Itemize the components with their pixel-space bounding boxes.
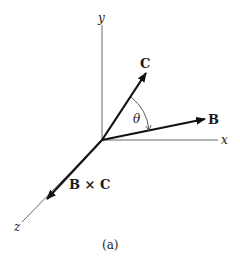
- figure-caption: (a): [102, 238, 119, 252]
- vector-c: [102, 73, 146, 140]
- vector-b-label: B: [208, 112, 219, 127]
- vector-c-label: C: [140, 56, 150, 71]
- cross-product-diagram: y x z C B B × C θ (a): [0, 0, 240, 261]
- vector-b-cross-c-label: B × C: [69, 177, 110, 192]
- theta-label: θ: [133, 112, 141, 126]
- x-axis-label: x: [221, 133, 228, 147]
- vector-b: [102, 119, 205, 140]
- y-axis-label: y: [97, 11, 105, 25]
- z-axis-label: z: [13, 220, 21, 234]
